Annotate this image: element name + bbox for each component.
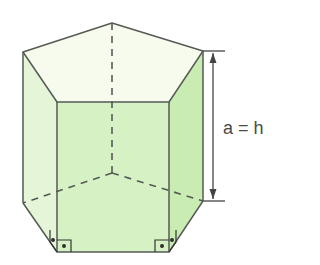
height-label: a = h <box>223 118 264 139</box>
front-face <box>57 102 169 252</box>
height-dimension-arrow <box>203 51 225 201</box>
